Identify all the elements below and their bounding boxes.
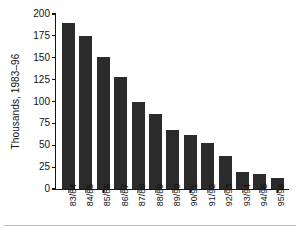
x-tick-label: 91/92 [208, 184, 217, 207]
bar-slot [166, 14, 179, 189]
x-tick-label: 88/89 [156, 184, 165, 207]
y-tick-label: 200 [33, 9, 52, 19]
x-label-slot: 90/91 [184, 190, 197, 228]
y-tick: 25 [39, 162, 56, 172]
y-tick-label: 0 [44, 184, 52, 194]
y-tick-label: 25 [39, 162, 52, 172]
bar-slot [79, 14, 92, 189]
bar-slot [253, 14, 266, 189]
y-tick: 0 [44, 184, 56, 194]
y-tick-label: 150 [33, 53, 52, 63]
y-tick: 150 [33, 53, 56, 63]
y-tick: 50 [39, 140, 56, 150]
x-label-slot: 86/87 [114, 190, 127, 228]
bar [62, 23, 75, 189]
bar-chart-figure: Thousands, 1983–96 0 25 50 75 100 [0, 0, 300, 229]
x-tick-label: 92/93 [225, 184, 234, 207]
bar-slot [132, 14, 145, 189]
x-label-slot: 89/90 [166, 190, 179, 228]
bar-series [56, 14, 288, 189]
y-tick: 100 [33, 97, 56, 107]
bar-slot [97, 14, 110, 189]
y-tick-label: 175 [33, 31, 52, 41]
y-tick-label: 100 [33, 97, 52, 107]
bar [132, 102, 145, 189]
x-tick-label: 95/96 [277, 184, 286, 207]
x-label-slot: 93/94 [236, 190, 249, 228]
x-label-slot: 91/92 [201, 190, 214, 228]
x-label-slot: 85/86 [97, 190, 110, 228]
x-axis-labels: 83/8484/8585/8686/8787/8888/8989/9090/91… [56, 190, 288, 228]
bar-slot [271, 14, 284, 189]
bar-slot [149, 14, 162, 189]
x-tick-label: 86/87 [121, 184, 130, 207]
bar [166, 130, 179, 190]
bottom-divider [4, 225, 296, 226]
plot-area: 0 25 50 75 100 125 [56, 14, 288, 189]
bar [79, 36, 92, 189]
x-label-slot: 95/96 [271, 190, 284, 228]
x-label-slot: 94/95 [253, 190, 266, 228]
bar [149, 114, 162, 189]
y-tick: 125 [33, 75, 56, 85]
y-tick-label: 125 [33, 75, 52, 85]
x-tick-label: 93/94 [243, 184, 252, 207]
bar [114, 77, 127, 189]
bar-slot [184, 14, 197, 189]
x-tick-label: 83/84 [69, 184, 78, 207]
x-tick-label: 87/88 [138, 184, 147, 207]
bar-slot [62, 14, 75, 189]
x-label-slot: 83/84 [62, 190, 75, 228]
x-tick-label: 89/90 [173, 184, 182, 207]
y-tick: 75 [39, 118, 56, 128]
x-tick-label: 84/85 [86, 184, 95, 207]
bar-slot [201, 14, 214, 189]
x-label-slot: 87/88 [132, 190, 145, 228]
y-tick-label: 50 [39, 140, 52, 150]
y-tick-label: 75 [39, 118, 52, 128]
bar-slot [219, 14, 232, 189]
x-tick-label: 85/86 [103, 184, 112, 207]
bar [201, 143, 214, 189]
y-tick: 175 [33, 31, 56, 41]
x-tick-label: 90/91 [190, 184, 199, 207]
bar-slot [236, 14, 249, 189]
x-label-slot: 92/93 [219, 190, 232, 228]
bar [184, 135, 197, 189]
x-label-slot: 84/85 [79, 190, 92, 228]
x-label-slot: 88/89 [149, 190, 162, 228]
y-axis-title: Thousands, 1983–96 [10, 14, 21, 190]
bar-slot [114, 14, 127, 189]
bar [97, 57, 110, 189]
y-tick: 200 [33, 9, 56, 19]
x-tick-label: 94/95 [260, 184, 269, 207]
